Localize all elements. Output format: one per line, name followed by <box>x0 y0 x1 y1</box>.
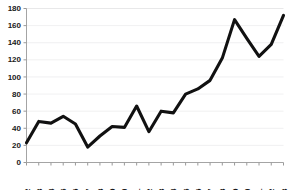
y-tick-label: 40 <box>12 124 21 133</box>
x-tick-label: 1983 <box>35 189 44 191</box>
x-tick-label: 1989 <box>108 189 117 191</box>
x-tick-label: 1991 <box>133 189 142 191</box>
x-tick-label: 2002 <box>267 189 276 191</box>
line-chart: 020406080100120140160180 198219831984198… <box>0 0 293 190</box>
x-tick-label: 1982 <box>23 189 32 191</box>
y-tick-label: 60 <box>12 107 21 116</box>
y-tick-label: 0 <box>17 158 22 167</box>
x-tick-label: 1997 <box>206 189 215 191</box>
x-tick-label: 1985 <box>59 189 68 191</box>
x-tick-label: 1990 <box>120 189 129 191</box>
chart-background <box>0 0 293 190</box>
x-tick-label: 1986 <box>71 189 80 191</box>
x-tick-label: 1999 <box>231 189 240 191</box>
y-tick-label: 100 <box>8 73 22 82</box>
x-tick-label: 1995 <box>182 189 191 191</box>
y-tick-label: 180 <box>8 4 22 13</box>
y-tick-label: 20 <box>12 141 21 150</box>
x-tick-label: 1992 <box>145 189 154 191</box>
x-tick-label: 1993 <box>157 189 166 191</box>
x-tick-label: 1996 <box>194 189 203 191</box>
x-tick-label: 2001 <box>255 189 264 191</box>
x-tick-label: 1998 <box>218 189 227 191</box>
y-tick-label: 120 <box>8 55 22 64</box>
x-tick-label: 1988 <box>96 189 105 191</box>
y-tick-label: 140 <box>8 38 22 47</box>
x-tick-label: 2000 <box>243 189 252 191</box>
y-tick-label: 160 <box>8 21 22 30</box>
x-tick-label: 1987 <box>84 189 93 191</box>
chart-canvas: 020406080100120140160180 198219831984198… <box>0 0 293 190</box>
y-tick-label: 80 <box>12 90 21 99</box>
x-tick-label: 2003 <box>280 189 289 191</box>
